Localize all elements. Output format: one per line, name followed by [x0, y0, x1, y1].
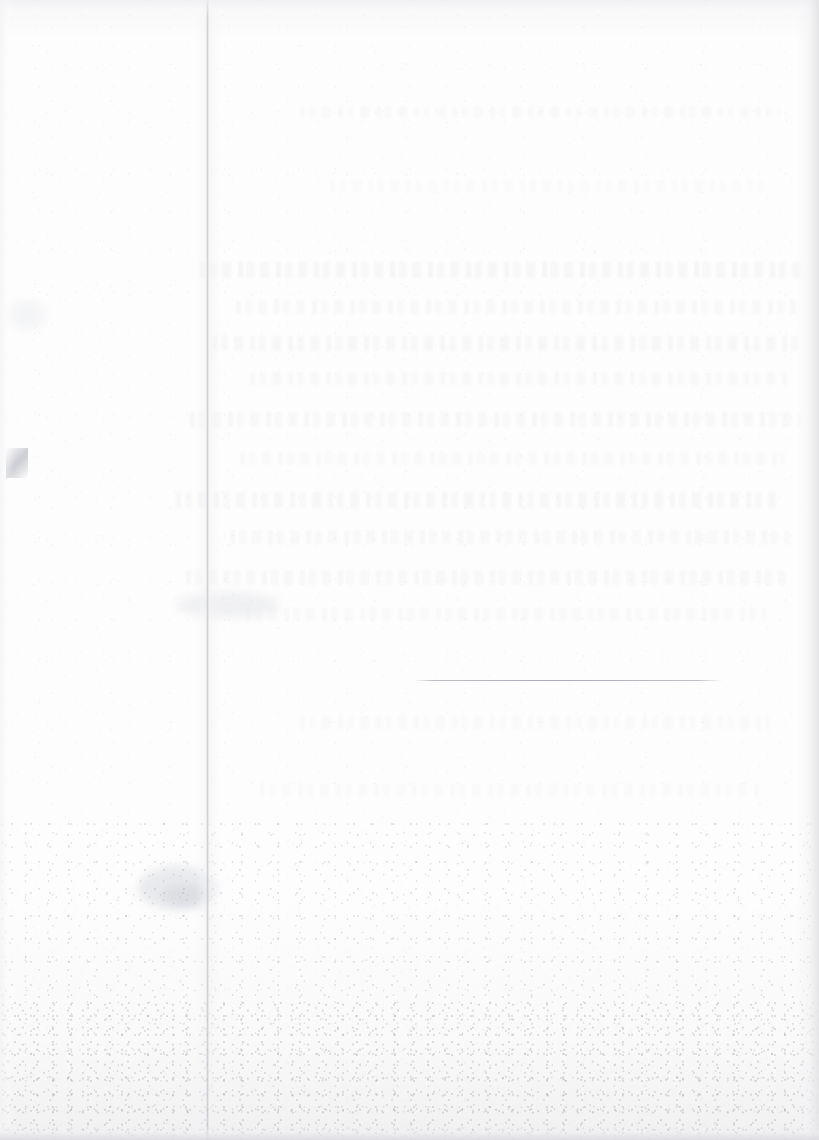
scanned-page — [0, 0, 819, 1140]
ghost-band-2 — [236, 300, 796, 314]
smudge-lower-left-2 — [162, 884, 208, 906]
vertical-crease-halo — [195, 0, 221, 1140]
ghost-band-11 — [300, 106, 780, 118]
ghost-band-9 — [186, 570, 786, 585]
scratch-left-edge — [6, 448, 28, 478]
ghost-band-12 — [330, 180, 770, 192]
ghost-band-13 — [300, 716, 770, 729]
ghost-band-8 — [230, 530, 790, 544]
smudge-lower-left — [138, 866, 216, 910]
ghost-band-3 — [212, 336, 802, 351]
smudge-mid-left — [176, 592, 280, 618]
page-edge-top — [0, 0, 819, 18]
ghost-band-5 — [190, 412, 800, 427]
page-edge-left — [0, 0, 14, 1140]
smudge-upper-left — [8, 300, 46, 330]
vertical-crease — [206, 0, 209, 1140]
paper-speckle-heavy — [0, 1000, 819, 1140]
ghost-band-7 — [176, 492, 776, 508]
ghost-band-4 — [250, 372, 790, 385]
ghost-band-6 — [240, 452, 785, 465]
paper-grain-overlay — [0, 0, 819, 1140]
ghost-band-1 — [200, 262, 800, 278]
ghost-band-14 — [260, 784, 760, 797]
paper-speckle-bottom — [0, 820, 819, 1140]
page-edge-bottom — [0, 1126, 819, 1140]
horizontal-rule — [414, 680, 723, 681]
ghost-band-10 — [246, 608, 766, 621]
page-edge-right — [797, 0, 819, 1140]
